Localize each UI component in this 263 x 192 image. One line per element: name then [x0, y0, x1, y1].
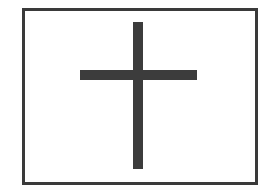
cross-horizontal-bar	[80, 70, 197, 80]
cross-vertical-bar	[133, 22, 143, 169]
